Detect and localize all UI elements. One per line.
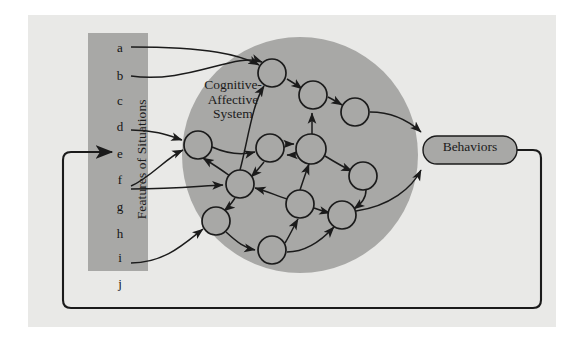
situation-letter-g: g	[117, 199, 124, 214]
situation-letter-h: h	[117, 226, 124, 241]
node-n10[interactable]	[328, 201, 356, 229]
node-n6[interactable]	[296, 134, 326, 164]
cas-label-line-1: Cognitive-	[196, 78, 270, 93]
situation-letter-d: d	[117, 119, 124, 134]
node-n11[interactable]	[202, 207, 230, 235]
node-n4[interactable]	[341, 98, 369, 126]
situation-letter-e: e	[117, 146, 123, 161]
node-n8[interactable]	[226, 170, 254, 198]
node-n7[interactable]	[349, 162, 377, 190]
cas-label-line-2: Affective	[196, 93, 270, 108]
node-n5[interactable]	[256, 134, 284, 162]
diagram-canvas: a b c d e f g h i j	[0, 0, 584, 342]
node-n3[interactable]	[299, 81, 327, 109]
features-of-situations-label: Features of Situations	[135, 79, 150, 239]
situation-letter-a: a	[117, 40, 123, 55]
node-n1[interactable]	[184, 131, 212, 159]
situation-letter-f: f	[118, 172, 123, 187]
node-n9[interactable]	[286, 190, 314, 218]
situation-letter-j: j	[117, 276, 122, 291]
situation-letter-b: b	[117, 68, 124, 83]
diagram-page: a b c d e f g h i j Features of Situatio…	[0, 0, 584, 342]
situation-letter-i: i	[118, 250, 122, 265]
cognitive-affective-system-label: Cognitive- Affective System	[196, 78, 270, 122]
behaviors-label: Behaviors	[427, 140, 513, 155]
node-n12[interactable]	[258, 236, 286, 264]
cas-label-line-3: System	[196, 107, 270, 122]
situation-letter-c: c	[117, 93, 123, 108]
